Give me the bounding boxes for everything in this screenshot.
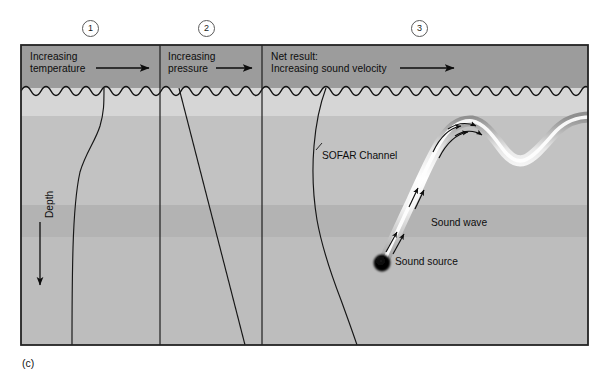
panel-velocity-heading-line1: Net result: bbox=[271, 51, 318, 63]
figure-root: 1 2 3 Increasing temperature Increasing … bbox=[0, 0, 607, 380]
band-sofar-depth bbox=[21, 205, 588, 237]
sofar-channel-label: SOFAR Channel bbox=[322, 150, 397, 162]
figure-caption: (c) bbox=[22, 357, 34, 369]
panel-pressure-heading-line2: pressure bbox=[168, 63, 208, 75]
panel-pressure-heading-line1: Increasing bbox=[168, 51, 216, 63]
band-mixed-layer bbox=[21, 88, 588, 116]
panel-temperature-heading-line1: Increasing bbox=[30, 51, 78, 63]
marker-step-2: 2 bbox=[198, 20, 215, 37]
marker-step-3: 3 bbox=[411, 20, 428, 37]
sound-wave-label: Sound wave bbox=[431, 217, 487, 229]
band-deep-water bbox=[21, 237, 588, 345]
panel-velocity-heading-line2: Increasing sound velocity bbox=[271, 63, 387, 75]
sound-source-label: Sound source bbox=[395, 256, 458, 268]
marker-step-1: 1 bbox=[82, 20, 99, 37]
ocean-depth-bands bbox=[21, 45, 588, 345]
sound-source-marker bbox=[374, 255, 391, 272]
band-upper-thermocline bbox=[21, 116, 588, 205]
panel-temperature-heading-line2: temperature bbox=[30, 63, 85, 75]
depth-axis-label: Depth bbox=[44, 191, 56, 218]
